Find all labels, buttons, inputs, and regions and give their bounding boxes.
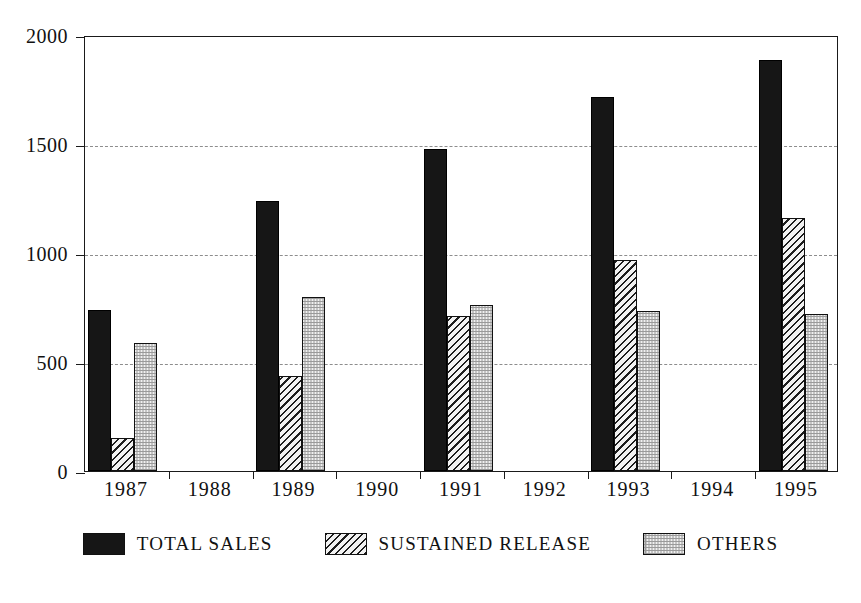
bar	[637, 311, 660, 471]
bar	[134, 343, 157, 471]
x-axis-labels: 198719881989199019911992199319941995	[84, 478, 838, 512]
x-tick-label: 1987	[104, 478, 148, 501]
plot-area	[84, 36, 838, 472]
bar	[591, 97, 614, 471]
x-tick-label: 1995	[774, 478, 818, 501]
gridline	[85, 255, 837, 256]
bar	[805, 314, 828, 471]
y-axis-labels: 0500100015002000	[0, 36, 76, 472]
bar	[111, 438, 134, 471]
bar	[424, 149, 447, 471]
bar	[782, 218, 805, 471]
bar-chart-figure: 0500100015002000 19871988198919901991199…	[0, 0, 861, 603]
legend-item[interactable]: TOTAL SALES	[83, 533, 273, 555]
y-tick-label: 1000	[26, 243, 68, 266]
y-tick-mark	[76, 255, 85, 256]
bar	[279, 376, 302, 471]
y-tick-mark	[76, 146, 85, 147]
legend-item[interactable]: OTHERS	[643, 533, 778, 555]
bar	[302, 297, 325, 471]
bar	[614, 260, 637, 471]
bar	[447, 316, 470, 471]
x-tick-label: 1988	[188, 478, 232, 501]
solid-black-swatch	[83, 533, 125, 555]
y-tick-label: 500	[37, 352, 69, 375]
x-tick-label: 1993	[607, 478, 651, 501]
y-tick-mark	[76, 37, 85, 38]
x-tick-label: 1989	[271, 478, 315, 501]
diagonal-hatch-swatch	[325, 533, 367, 555]
y-tick-label: 1500	[26, 134, 68, 157]
x-tick-label: 1994	[690, 478, 734, 501]
legend-item[interactable]: SUSTAINED RELEASE	[325, 533, 592, 555]
bar	[88, 310, 111, 471]
gridline	[85, 146, 837, 147]
x-tick-label: 1992	[523, 478, 567, 501]
y-tick-label: 0	[58, 461, 69, 484]
bar	[256, 201, 279, 471]
y-tick-mark	[76, 473, 85, 474]
bar	[759, 60, 782, 471]
chart-legend: TOTAL SALESSUSTAINED RELEASEOTHERS	[0, 533, 861, 555]
y-tick-label: 2000	[26, 25, 68, 48]
light-stipple-swatch	[643, 533, 685, 555]
legend-label: OTHERS	[697, 533, 778, 555]
legend-label: SUSTAINED RELEASE	[379, 533, 592, 555]
x-tick-label: 1991	[439, 478, 483, 501]
x-tick-label: 1990	[355, 478, 399, 501]
bar	[470, 305, 493, 471]
y-tick-mark	[76, 364, 85, 365]
legend-label: TOTAL SALES	[137, 533, 273, 555]
